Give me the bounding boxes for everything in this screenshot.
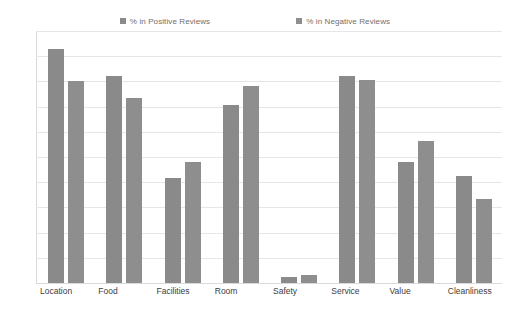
bar-facilities-positive[interactable] (165, 178, 181, 283)
bar-facilities-negative[interactable] (185, 162, 201, 283)
bar-group-facilities (153, 31, 211, 283)
x-axis-label-service: Service (327, 286, 385, 306)
bar-value-positive[interactable] (398, 162, 414, 283)
bar-group-service (327, 31, 385, 283)
x-axis-labels: LocationFoodFacilitiesRoomSafetyServiceV… (36, 286, 502, 306)
bar-cleanliness-negative[interactable] (476, 199, 492, 283)
legend-label-positive: % in Positive Reviews (130, 17, 210, 26)
bar-group-room (211, 31, 269, 283)
bar-chart: % in Positive Reviews % in Negative Revi… (0, 0, 510, 325)
bar-location-negative[interactable] (68, 81, 84, 283)
gridline-0 (36, 283, 502, 284)
bar-room-negative[interactable] (243, 86, 259, 283)
bar-location-positive[interactable] (48, 49, 64, 283)
bar-service-positive[interactable] (339, 76, 355, 283)
legend-swatch-icon-negative (296, 18, 302, 24)
x-axis-label-facilities: Facilities (153, 286, 211, 306)
bar-safety-negative[interactable] (301, 275, 317, 283)
x-axis-label-cleanliness: Cleanliness (444, 286, 502, 306)
bar-group-food (94, 31, 152, 283)
legend-swatch-icon-positive (120, 18, 126, 24)
x-axis-label-value: Value (386, 286, 444, 306)
x-axis-label-safety: Safety (269, 286, 327, 306)
bar-safety-positive[interactable] (281, 277, 297, 283)
x-axis-label-location: Location (36, 286, 94, 306)
x-axis-label-room: Room (211, 286, 269, 306)
bar-room-positive[interactable] (223, 105, 239, 283)
bar-groups (36, 31, 502, 283)
bar-food-negative[interactable] (126, 98, 142, 283)
bar-group-location (36, 31, 94, 283)
bar-group-value (386, 31, 444, 283)
bar-value-negative[interactable] (418, 141, 434, 283)
legend-item-negative-reviews[interactable]: % in Negative Reviews (296, 17, 390, 26)
bar-group-cleanliness (444, 31, 502, 283)
legend-label-negative: % in Negative Reviews (306, 17, 390, 26)
chart-legend: % in Positive Reviews % in Negative Revi… (0, 11, 510, 31)
legend-item-positive-reviews[interactable]: % in Positive Reviews (120, 17, 210, 26)
plot-area: 1009080706050403020100 (36, 31, 502, 283)
bar-group-safety (269, 31, 327, 283)
bar-food-positive[interactable] (106, 76, 122, 283)
x-axis-label-food: Food (94, 286, 152, 306)
bar-cleanliness-positive[interactable] (456, 176, 472, 283)
bar-service-negative[interactable] (359, 80, 375, 283)
